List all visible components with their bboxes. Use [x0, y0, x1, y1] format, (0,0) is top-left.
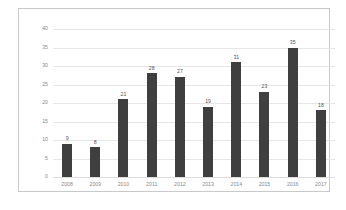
gridline-0: 0 [53, 177, 335, 178]
bar-group: 92008 [53, 29, 81, 177]
y-axis-tick-label: 10 [42, 137, 48, 142]
y-axis-tick-label: 35 [42, 45, 48, 50]
bar-value-label: 21 [121, 92, 127, 97]
bar-group: 82009 [81, 29, 109, 177]
bar[interactable] [203, 107, 213, 177]
bar[interactable] [175, 77, 185, 177]
bar-value-label: 23 [262, 84, 268, 89]
chart-screenshot: 0510152025303540 92008820092120102820112… [0, 0, 346, 210]
bar-value-label: 35 [290, 40, 296, 45]
chart-frame: 0510152025303540 92008820092120102820112… [18, 8, 330, 192]
bar[interactable] [147, 73, 157, 177]
bar-group: 212010 [109, 29, 137, 177]
y-axis-tick-label: 40 [42, 26, 48, 31]
x-axis-tick-label: 2017 [315, 182, 327, 187]
y-axis-tick-label: 20 [42, 100, 48, 105]
y-axis-tick-label: 30 [42, 63, 48, 68]
y-axis-tick-label: 25 [42, 82, 48, 87]
bar-value-label: 19 [205, 99, 211, 104]
bar-value-label: 9 [66, 136, 69, 141]
x-axis-tick-label: 2010 [118, 182, 130, 187]
x-axis-tick-label: 2012 [174, 182, 186, 187]
bar-group: 282011 [138, 29, 166, 177]
x-axis-tick-label: 2008 [61, 182, 73, 187]
bar-value-label: 31 [233, 55, 239, 60]
x-axis-tick-label: 2011 [146, 182, 157, 187]
y-axis-tick-label: 5 [45, 156, 48, 161]
bar-group: 232015 [250, 29, 278, 177]
bar-value-label: 8 [94, 140, 97, 145]
plot-area: 0510152025303540 92008820092120102820112… [53, 29, 335, 177]
x-axis-tick-label: 2014 [231, 182, 243, 187]
bar-value-label: 28 [149, 66, 155, 71]
bar-group: 272012 [166, 29, 194, 177]
bar-value-label: 18 [318, 103, 324, 108]
bar-group: 312014 [222, 29, 250, 177]
x-axis-tick-label: 2016 [287, 182, 299, 187]
bar-group: 192013 [194, 29, 222, 177]
bar[interactable] [231, 62, 241, 177]
y-axis-tick-label: 15 [42, 119, 48, 124]
bar[interactable] [316, 110, 326, 177]
bar-value-label: 27 [177, 69, 183, 74]
bar[interactable] [288, 48, 298, 178]
bar[interactable] [90, 147, 100, 177]
bar[interactable] [118, 99, 128, 177]
x-axis-tick-label: 2009 [90, 182, 102, 187]
y-axis-tick-label: 0 [45, 174, 48, 179]
bar[interactable] [259, 92, 269, 177]
bar-series: 9200882009212010282011272012192013312014… [53, 29, 335, 177]
x-axis-tick-label: 2013 [202, 182, 214, 187]
bar-group: 352016 [279, 29, 307, 177]
bar-group: 182017 [307, 29, 335, 177]
bar[interactable] [62, 144, 72, 177]
x-axis-tick-label: 2015 [259, 182, 271, 187]
